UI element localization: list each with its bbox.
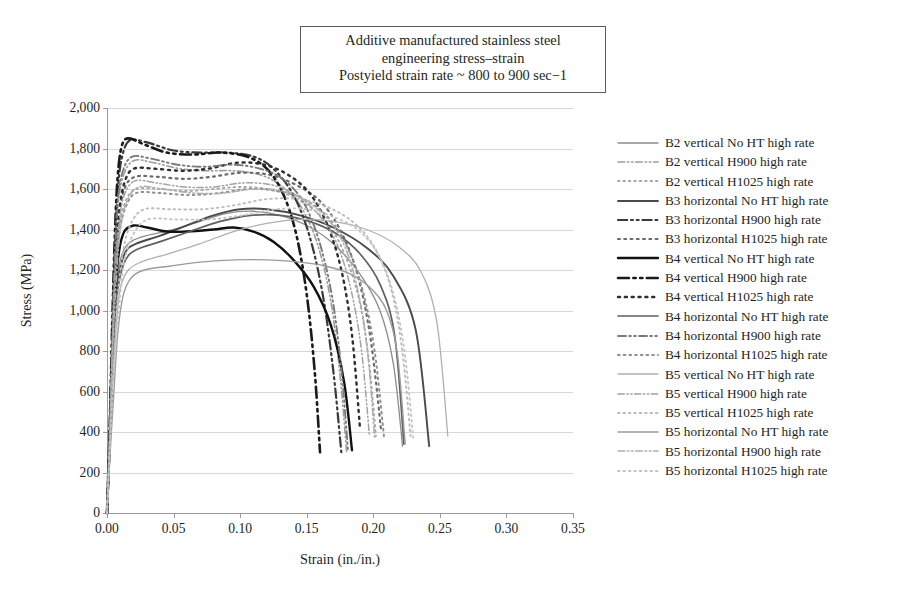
y-tick-label: 800 — [44, 344, 100, 358]
chart-title-line-1: Additive manufactured stainless steel — [307, 32, 599, 50]
legend-item-label: B5 horizontal H900 high rate — [665, 445, 821, 458]
y-axis-title: Stress (MPa) — [18, 221, 35, 361]
curve — [107, 208, 429, 513]
legend-item[interactable]: B5 vertical H900 high rate — [618, 384, 904, 403]
legend-item-label: B5 vertical H900 high rate — [665, 387, 807, 400]
legend-line-swatch — [618, 291, 658, 303]
y-tick-label: 1,000 — [44, 304, 100, 318]
legend-item-label: B3 horizontal No HT high rate — [665, 194, 828, 207]
curve — [107, 139, 341, 513]
x-tick-label: 0.20 — [343, 522, 403, 536]
chart-title-line-2: engineering stress–strain — [307, 50, 599, 68]
legend-item-label: B4 vertical No HT high rate — [665, 252, 814, 265]
legend-item[interactable]: B4 vertical No HT high rate — [618, 249, 904, 268]
legend-item[interactable]: B5 horizontal H900 high rate — [618, 442, 904, 461]
y-tick-label: 200 — [44, 466, 100, 480]
legend-line-swatch — [618, 175, 658, 187]
y-tick-label: 1,600 — [44, 182, 100, 196]
y-tick-label: 0 — [44, 506, 100, 520]
x-axis-title: Strain (in./in.) — [107, 551, 573, 568]
legend-item-label: B2 vertical H900 high rate — [665, 155, 807, 168]
legend-item-label: B5 vertical No HT high rate — [665, 368, 814, 381]
legend-item-label: B4 horizontal No HT high rate — [665, 310, 828, 323]
curve — [107, 219, 448, 513]
curve — [107, 162, 360, 513]
y-axis-tick-labels: 02004006008001,0001,2001,4001,6001,8002,… — [42, 0, 100, 598]
x-tick-mark — [307, 514, 308, 518]
legend-item[interactable]: B2 vertical No HT high rate — [618, 133, 904, 152]
chart-figure: Additive manufactured stainless steel en… — [0, 0, 908, 598]
legend-item-label: B5 horizontal H1025 high rate — [665, 464, 827, 477]
curve — [107, 173, 381, 513]
x-tick-mark — [573, 514, 574, 518]
legend-item-label: B3 horizontal H900 high rate — [665, 213, 821, 226]
y-tick-label: 1,200 — [44, 263, 100, 277]
legend-item[interactable]: B5 horizontal H1025 high rate — [618, 461, 904, 480]
legend-item-label: B5 vertical H1025 high rate — [665, 406, 813, 419]
plot-area — [107, 108, 573, 513]
legend-line-swatch — [618, 137, 658, 149]
legend-item[interactable]: B5 vertical No HT high rate — [618, 365, 904, 384]
legend-line-swatch — [618, 465, 658, 477]
x-tick-label: 0.10 — [210, 522, 270, 536]
legend-item-label: B4 horizontal H1025 high rate — [665, 348, 827, 361]
x-tick-mark — [506, 514, 507, 518]
x-tick-mark — [107, 514, 108, 518]
x-tick-label: 0.25 — [410, 522, 470, 536]
legend-item-label: B3 horizontal H1025 high rate — [665, 232, 827, 245]
x-tick-label: 0.00 — [77, 522, 137, 536]
legend-item[interactable]: B4 vertical H900 high rate — [618, 268, 904, 287]
y-tick-label: 1,400 — [44, 223, 100, 237]
legend-item[interactable]: B5 horizontal No HT high rate — [618, 422, 904, 441]
legend-line-swatch — [618, 233, 658, 245]
legend-item[interactable]: B4 horizontal No HT high rate — [618, 307, 904, 326]
y-tick-label: 2,000 — [44, 101, 100, 115]
curve — [107, 211, 403, 513]
legend-item-label: B4 vertical H1025 high rate — [665, 290, 813, 303]
legend-item-label: B4 horizontal H900 high rate — [665, 329, 821, 342]
legend-line-swatch — [618, 407, 658, 419]
legend-item[interactable]: B4 horizontal H900 high rate — [618, 326, 904, 345]
x-tick-mark — [240, 514, 241, 518]
legend-item-label: B2 vertical H1025 high rate — [665, 175, 813, 188]
legend-line-swatch — [618, 349, 658, 361]
curve — [107, 260, 405, 513]
legend-line-swatch — [618, 368, 658, 380]
x-tick-label: 0.35 — [543, 522, 603, 536]
x-tick-label: 0.30 — [476, 522, 536, 536]
legend-line-swatch — [618, 272, 658, 284]
legend-item[interactable]: B3 horizontal H1025 high rate — [618, 229, 904, 248]
chart-legend: B2 vertical No HT high rateB2 vertical H… — [618, 133, 904, 480]
x-tick-label: 0.15 — [277, 522, 337, 536]
x-axis-line — [107, 513, 574, 514]
legend-line-swatch — [618, 330, 658, 342]
legend-line-swatch — [618, 426, 658, 438]
x-tick-mark — [174, 514, 175, 518]
legend-line-swatch — [618, 445, 658, 457]
y-tick-label: 600 — [44, 385, 100, 399]
legend-item[interactable]: B3 horizontal H900 high rate — [618, 210, 904, 229]
legend-line-swatch — [618, 214, 658, 226]
legend-item[interactable]: B3 horizontal No HT high rate — [618, 191, 904, 210]
chart-title: Additive manufactured stainless steel en… — [300, 26, 606, 93]
legend-item-label: B5 horizontal No HT high rate — [665, 425, 828, 438]
y-tick-label: 1,800 — [44, 142, 100, 156]
legend-item-label: B4 vertical H900 high rate — [665, 271, 807, 284]
x-tick-mark — [440, 514, 441, 518]
chart-title-line-3: Postyield strain rate ~ 800 to 900 sec−1 — [307, 67, 599, 85]
legend-item[interactable]: B4 vertical H1025 high rate — [618, 287, 904, 306]
legend-line-swatch — [618, 310, 658, 322]
legend-item-label: B2 vertical No HT high rate — [665, 136, 814, 149]
legend-item[interactable]: B2 vertical H900 high rate — [618, 152, 904, 171]
x-tick-label: 0.05 — [144, 522, 204, 536]
legend-line-swatch — [618, 252, 658, 264]
stress-strain-curves — [107, 108, 573, 513]
legend-line-swatch — [618, 388, 658, 400]
x-tick-mark — [373, 514, 374, 518]
y-tick-label: 400 — [44, 425, 100, 439]
curve — [107, 208, 413, 513]
legend-line-swatch — [618, 156, 658, 168]
legend-item[interactable]: B2 vertical H1025 high rate — [618, 172, 904, 191]
legend-item[interactable]: B5 vertical H1025 high rate — [618, 403, 904, 422]
legend-item[interactable]: B4 horizontal H1025 high rate — [618, 345, 904, 364]
